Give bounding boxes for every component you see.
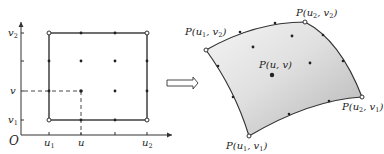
p-u2-v1-label: P(u2, v1): [341, 101, 383, 114]
p-u2-v2-label: P(u2, v2): [295, 7, 337, 20]
v1-label: v1: [8, 114, 18, 127]
parameter-domain-panel: O v2 v v1 u1 u u2: [8, 22, 172, 150]
u1-label: u1: [44, 137, 55, 150]
implies-arrow-icon: [167, 77, 198, 89]
p-u1-v1-label: P(u1, v1): [225, 140, 267, 153]
v2-label: v2: [8, 27, 18, 40]
v-label: v: [10, 85, 16, 96]
p-u-v-point: [270, 73, 274, 77]
p-u-v-label: P(u, v): [258, 59, 292, 70]
parametric-surface-diagram: O v2 v v1 u1 u u2 P(u1, v: [0, 0, 384, 154]
u-label: u: [78, 137, 84, 148]
origin-label: O: [9, 134, 19, 148]
surface-panel: P(u1, v2) P(u2, v2) P(u2, v1) P(u1, v1) …: [184, 7, 383, 153]
u2-label: u2: [142, 137, 153, 150]
surface-patch: [206, 22, 362, 136]
domain-grid-points: [48, 32, 149, 122]
p-u1-v2-label: P(u1, v2): [184, 26, 226, 39]
domain-corner-points: [47, 31, 149, 122]
domain-rectangle: [49, 33, 147, 120]
